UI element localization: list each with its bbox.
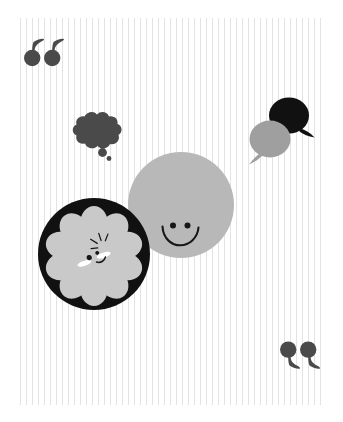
- closing-quote-icon: [278, 338, 326, 372]
- flower-in-black-circle: [37, 197, 151, 311]
- opening-quote-icon: [22, 36, 70, 70]
- illustration-canvas: [0, 0, 343, 422]
- speech-bubble-gray-icon: [243, 119, 295, 167]
- thought-bubble-icon: [66, 110, 130, 166]
